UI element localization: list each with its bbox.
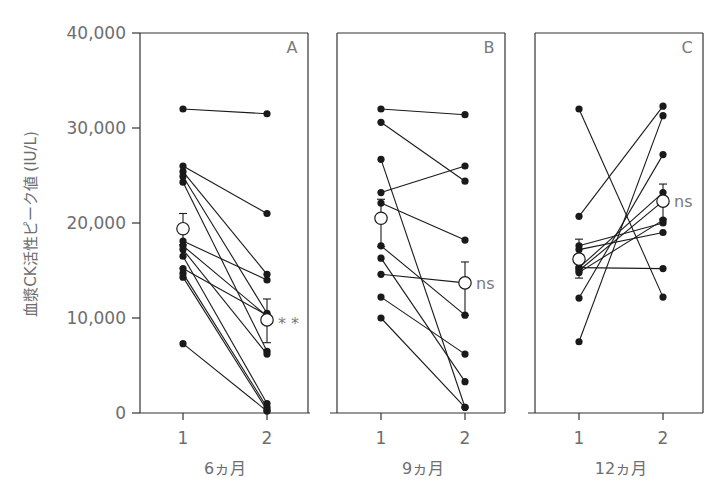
panel-b: 129ヵ月Bns (330, 33, 505, 478)
subject-line (183, 277, 267, 410)
x-tick-label: 2 (460, 428, 471, 448)
subject-line (381, 109, 465, 115)
subject-point (377, 255, 384, 262)
subject-point (659, 265, 666, 272)
subject-point (263, 210, 270, 217)
subject-point (461, 111, 468, 118)
x-tick-label: 1 (376, 428, 387, 448)
x-tick-label: 1 (574, 428, 585, 448)
y-tick-label: 20,000 (67, 213, 126, 233)
subject-point (377, 314, 384, 321)
mean-point (375, 212, 387, 224)
panel-a: 126ヵ月A* * (140, 33, 310, 478)
mean-point (459, 277, 471, 289)
panel-c: 1212ヵ月Cns (528, 33, 703, 478)
subject-line (183, 241, 267, 280)
x-tick-label: 2 (658, 428, 669, 448)
significance-label: ns (476, 274, 494, 293)
subject-line (183, 250, 267, 355)
subject-point (575, 213, 582, 220)
subject-point (377, 294, 384, 301)
subject-point (575, 294, 582, 301)
subject-point (263, 408, 270, 415)
subject-point (179, 253, 186, 260)
subject-line (579, 233, 663, 250)
subject-point (461, 351, 468, 358)
panel-letter: A (287, 38, 298, 57)
subject-point (377, 119, 384, 126)
subject-line (183, 172, 267, 275)
y-tick-label: 40,000 (67, 23, 126, 43)
subject-point (659, 151, 666, 158)
panel-x-label: 9ヵ月 (402, 459, 444, 478)
mean-point (657, 195, 669, 207)
subject-line (381, 297, 465, 354)
subject-line (579, 201, 663, 270)
subject-line (183, 109, 267, 114)
subject-point (659, 103, 666, 110)
panel-letter: B (484, 38, 495, 57)
subject-point (263, 110, 270, 117)
subject-point (179, 105, 186, 112)
subject-point (461, 178, 468, 185)
mean-point (177, 223, 189, 235)
chart-canvas: 血漿CK活性ピーク値 (IU/L) 010,00020,00030,00040,… (0, 0, 723, 487)
subject-line (183, 246, 267, 316)
subject-line (183, 344, 267, 411)
subject-point (179, 340, 186, 347)
subject-point (575, 105, 582, 112)
significance-label: ns (674, 192, 692, 211)
subject-line (381, 246, 465, 315)
subject-point (461, 237, 468, 244)
subject-line (183, 256, 267, 403)
subject-point (263, 351, 270, 358)
subject-point (659, 112, 666, 119)
subject-line (381, 122, 465, 181)
panel-x-label: 6ヵ月 (204, 459, 246, 478)
subject-line (579, 116, 663, 342)
panel-x-label: 12ヵ月 (595, 459, 647, 478)
y-axis: 010,00020,00030,00040,000 (67, 23, 140, 423)
subject-point (659, 229, 666, 236)
subject-point (377, 271, 384, 278)
subject-line (381, 274, 465, 283)
subject-line (381, 166, 465, 193)
subject-line (381, 203, 465, 240)
y-axis-label: 血漿CK活性ピーク値 (IU/L) (22, 131, 40, 317)
panels: 126ヵ月A* *129ヵ月Bns1212ヵ月Cns (140, 33, 703, 478)
subject-line (183, 182, 267, 351)
subject-line (579, 106, 663, 216)
significance-label: * * (278, 314, 299, 333)
subject-point (377, 189, 384, 196)
subject-point (659, 294, 666, 301)
y-tick-label: 30,000 (67, 118, 126, 138)
mean-point (261, 314, 273, 326)
panel-letter: C (681, 38, 692, 57)
subject-point (179, 274, 186, 281)
mean-point (573, 253, 585, 265)
subject-point (179, 179, 186, 186)
y-tick-label: 10,000 (67, 308, 126, 328)
subject-point (575, 338, 582, 345)
x-tick-label: 1 (178, 428, 189, 448)
subject-line (381, 159, 465, 407)
subject-point (461, 404, 468, 411)
subject-point (377, 156, 384, 163)
y-tick-label: 0 (115, 403, 126, 423)
subject-point (461, 378, 468, 385)
subject-point (263, 276, 270, 283)
subject-point (377, 105, 384, 112)
subject-point (461, 162, 468, 169)
subject-point (179, 246, 186, 253)
x-tick-label: 2 (262, 428, 273, 448)
